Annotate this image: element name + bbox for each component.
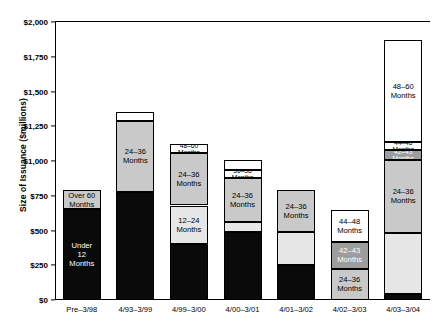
bar-segment[interactable] (224, 222, 262, 232)
y-axis-tick-label: $0 (0, 296, 48, 305)
bar-4[interactable]: 24–36 Months36–38 Months (224, 160, 262, 300)
y-axis-tick-label: $2,000 (0, 18, 48, 27)
y-axis-tick-label: $1,000 (0, 157, 48, 166)
y-axis-tick-label: $1,250 (0, 122, 48, 131)
bar-segment-label: 44–48 Months (336, 217, 363, 235)
bar-segment[interactable] (277, 265, 315, 300)
bar-segment-label: 44–48 Months (385, 142, 421, 150)
bar-segment-label: 24–36 Months (229, 191, 256, 209)
bar-segment[interactable]: 24–36 Months (224, 178, 262, 222)
bar-segment[interactable]: 36–38 Months (224, 170, 262, 178)
x-axis-tick-label: Pre–3/98 (66, 305, 97, 314)
stacked-bar-chart: Size of Issuance ($millions) $2,000$1,75… (0, 0, 442, 331)
y-axis-tick-label: $500 (0, 226, 48, 235)
bar-segment[interactable]: 44–48 Months (384, 142, 422, 150)
bar-5[interactable]: 24–36 Months (277, 190, 315, 300)
bar-segment[interactable]: 24–36 Months (331, 269, 369, 300)
bar-6[interactable]: 24–36 Months42–43 Months44–48 Months (331, 210, 369, 300)
bar-segment[interactable]: 48–60 Months (384, 40, 422, 141)
bar-segment-label: 12–24 Months (175, 216, 202, 234)
x-axis-tick-label: 4/02–3/03 (333, 305, 367, 314)
bar-segment[interactable]: 24–36 Months (277, 190, 315, 232)
bar-segment[interactable] (224, 160, 262, 170)
bar-segment-label: 42–43 Months (385, 150, 421, 160)
bar-1[interactable]: Under 12 MonthsOver 60 Months (63, 190, 101, 300)
x-axis-tick-label: 4/99–3/00 (172, 305, 206, 314)
y-axis-title: Size of Issuance ($millions) (18, 80, 28, 230)
bar-segment[interactable]: Over 60 Months (63, 190, 101, 209)
bar-segment[interactable]: 42–43 Months (384, 150, 422, 160)
bar-segment-label: 24–36 Months (122, 147, 149, 165)
x-axis-tick-label: 4/93–3/99 (118, 305, 152, 314)
bar-segment-label: 24–36 Months (283, 202, 310, 220)
bar-segment[interactable] (116, 112, 154, 120)
y-axis-tick-label: $1,500 (0, 87, 48, 96)
bar-segment-label: 24–36 Months (175, 170, 202, 188)
x-axis-tick-label: 4/00–3/01 (226, 305, 260, 314)
bar-7[interactable]: 24–36 Months42–43 Months44–48 Months48–6… (384, 40, 422, 300)
bar-segment[interactable]: 42–43 Months (331, 242, 369, 269)
bar-segment[interactable]: 24–36 Months (384, 160, 422, 234)
y-axis-tick-label: $250 (0, 261, 48, 270)
y-axis-tick-label: $750 (0, 191, 48, 200)
bar-segment[interactable]: 24–36 Months (116, 121, 154, 193)
bar-segment-label: 42–43 Months (336, 246, 363, 264)
bar-segment[interactable]: 24–36 Months (170, 153, 208, 205)
bar-segment-label: 24–36 Months (336, 275, 363, 293)
bar-segment[interactable] (170, 244, 208, 300)
x-axis-tick-label: 4/03–3/04 (386, 305, 420, 314)
bar-segment-label: Over 60 Months (67, 191, 96, 209)
bar-segment[interactable] (116, 192, 154, 300)
bar-segment[interactable]: 12–24 Months (170, 206, 208, 245)
bar-segment[interactable] (224, 232, 262, 300)
bar-segment-label: Under 12 Months (68, 241, 95, 268)
x-axis-tick-label: 4/01–3/02 (279, 305, 313, 314)
bar-segment[interactable]: 44–48 Months (331, 210, 369, 242)
bar-segment[interactable]: 48–60 Months (170, 144, 208, 153)
bar-segment[interactable] (384, 294, 422, 300)
bar-3[interactable]: 12–24 Months24–36 Months48–60 Months (170, 144, 208, 300)
bar-2[interactable]: 24–36 Months (116, 112, 154, 300)
bar-segment-label: 36–38 Months (225, 170, 261, 178)
bar-segment[interactable] (277, 232, 315, 265)
y-axis-tick-label: $1,750 (0, 52, 48, 61)
bar-segment-label: 48–60 Months (390, 82, 417, 100)
bar-segment[interactable]: Under 12 Months (63, 209, 101, 300)
bar-segment-label: 48–60 Months (171, 144, 207, 153)
bar-segment-label: 24–36 Months (390, 187, 417, 205)
bar-segment[interactable] (384, 233, 422, 294)
